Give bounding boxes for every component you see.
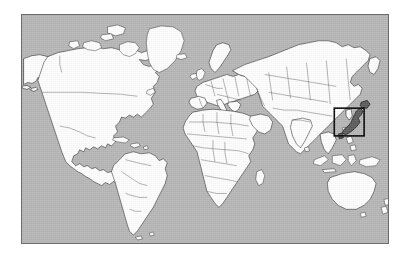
- world-map-canvas: [22, 15, 388, 243]
- island-falklands: [149, 232, 154, 236]
- island-new-zealand-north: [384, 198, 388, 205]
- map-frame: [21, 14, 389, 244]
- world-map-figure: [0, 0, 409, 263]
- island-java: [322, 169, 336, 173]
- island-sri-lanka: [304, 147, 309, 152]
- island-caribbean-small: [143, 146, 148, 150]
- island-tasmania: [360, 212, 366, 217]
- island-philippines-2: [350, 145, 356, 151]
